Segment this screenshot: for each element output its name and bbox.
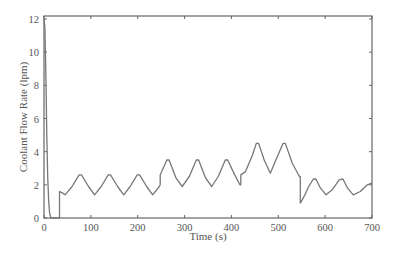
y-tick-label: 2 <box>34 180 39 191</box>
y-tick-label: 4 <box>34 147 40 158</box>
x-tick-label: 600 <box>317 222 333 233</box>
axis-ticks: 0100200300400500600700024681012 <box>29 14 380 233</box>
y-tick-label: 8 <box>34 80 39 91</box>
x-tick-label: 0 <box>41 222 46 233</box>
data-series <box>44 19 372 218</box>
x-tick-label: 700 <box>364 222 380 233</box>
y-tick-label: 0 <box>34 213 39 224</box>
x-axis-title: Time (s) <box>189 230 227 243</box>
y-tick-label: 10 <box>29 47 40 58</box>
y-tick-label: 12 <box>29 14 40 25</box>
x-tick-label: 200 <box>130 222 146 233</box>
y-tick-label: 6 <box>34 114 39 125</box>
line-chart: 0100200300400500600700024681012 Time (s)… <box>0 0 398 259</box>
y-axis-title: Coolant Flow Rate (lpm) <box>17 62 30 173</box>
x-tick-label: 100 <box>83 222 99 233</box>
x-tick-label: 500 <box>270 222 286 233</box>
plot-border <box>44 16 372 218</box>
plot-frame <box>44 16 372 218</box>
series-line <box>44 19 372 218</box>
